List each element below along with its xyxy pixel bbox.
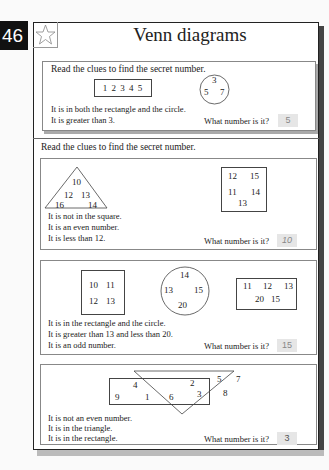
rectangle-number: 6 — [169, 392, 174, 402]
triangle-number: 5 — [217, 374, 222, 384]
triangle-number: 13 — [81, 190, 90, 200]
overlap-number: 3 — [197, 389, 202, 399]
triangle-number: 10 — [72, 177, 81, 187]
triangle-number: 7 — [236, 374, 241, 384]
rectangle-number: 13 — [284, 281, 293, 291]
circle-number: 20 — [178, 300, 187, 310]
clue: It is in the rectangle and the circle. — [48, 318, 166, 329]
question-label: What number is it? — [204, 116, 269, 126]
rectangle-number: 13 — [106, 296, 115, 306]
page-number-badge: 46 — [0, 21, 28, 50]
rectangle-number: 11 — [243, 281, 252, 291]
rectangle-number: 10 — [89, 280, 98, 290]
page-shadow-bottom — [37, 450, 324, 456]
rectangle-shape — [81, 270, 125, 315]
rectangle-number: 11 — [106, 280, 115, 290]
rectangle-number: 12 — [89, 296, 98, 306]
answer-box[interactable]: 10 — [277, 234, 297, 247]
example-instruction: Read the clues to find the secret number… — [51, 64, 206, 74]
star-box — [33, 22, 58, 48]
circle-number: 13 — [164, 285, 173, 295]
rectangle-number: 15 — [271, 294, 280, 304]
rectangle-number: 12 — [263, 281, 272, 291]
section-instruction: Read the clues to find the secret number… — [41, 142, 196, 152]
square-number: 12 — [228, 171, 237, 181]
clue: It is an even number. — [48, 222, 119, 233]
circle-number: 15 — [194, 285, 203, 295]
star-outline-icon — [33, 22, 58, 48]
triangle-number: 14 — [88, 200, 97, 210]
answer-box[interactable]: 3 — [277, 432, 297, 445]
answer-box[interactable]: 15 — [277, 339, 297, 352]
triangle-shape — [42, 165, 112, 210]
clue: It is not in the square. — [48, 211, 122, 222]
clue: It is greater than 3. — [51, 115, 115, 126]
triangle-number: 12 — [64, 190, 73, 200]
square-number: 14 — [251, 187, 260, 197]
rectangle-numbers: 1 2 3 4 5 — [95, 80, 151, 96]
circle-number: 5 — [204, 87, 209, 97]
square-number: 15 — [250, 171, 259, 181]
rectangle-number: 9 — [115, 392, 120, 402]
question-label: What number is it? — [204, 341, 269, 351]
rectangle-shape — [109, 378, 210, 405]
clue: It is less than 12. — [48, 233, 105, 244]
answer-box[interactable]: 5 — [278, 114, 298, 127]
page-shadow-right — [319, 26, 324, 454]
circle-number: 7 — [220, 87, 225, 97]
triangle-number: 8 — [223, 388, 228, 398]
page-title: Venn diagrams — [60, 24, 320, 46]
square-number: 11 — [228, 187, 237, 197]
divider — [33, 138, 319, 139]
clue: It is greater than 13 and less than 20. — [48, 329, 173, 340]
clue: It is in both the rectangle and the circ… — [51, 104, 186, 115]
question-label: What number is it? — [204, 434, 269, 444]
overlap-number: 2 — [190, 378, 195, 388]
circle-number: 3 — [212, 75, 217, 85]
example-rectangle: 1 2 3 4 5 — [94, 79, 152, 97]
circle-number: 14 — [180, 270, 189, 280]
clue: It is an odd number. — [48, 340, 116, 351]
clue: It is in the rectangle. — [48, 433, 118, 444]
rectangle-number: 1 — [145, 392, 150, 402]
rectangle-number: 4 — [133, 380, 138, 390]
question-label: What number is it? — [204, 236, 269, 246]
triangle-number: 16 — [55, 200, 64, 210]
square-number: 13 — [238, 198, 247, 208]
rectangle-number: 20 — [255, 294, 264, 304]
